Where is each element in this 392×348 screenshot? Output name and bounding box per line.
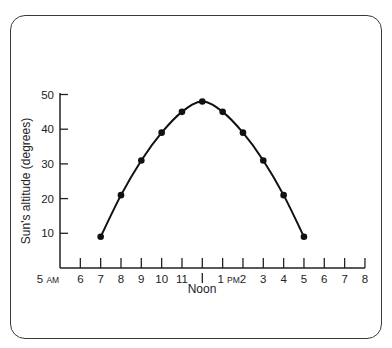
data-point [240,129,247,136]
x-tick-label: 4 [280,273,287,285]
x-tick-label: 8 [362,273,368,285]
data-point [179,109,186,116]
x-axis-noon-label: Noon [188,282,217,296]
x-tick-label: 7 [97,273,103,285]
data-point [158,129,165,136]
data-point [219,109,226,116]
x-tick-label: 2 [240,273,246,285]
x-tick-label: 10 [155,273,168,285]
x-tick-label: 3 [260,273,266,285]
y-axis-title: Sun's altitude (degrees) [19,118,33,244]
data-point [118,192,125,199]
y-tick-label: 50 [41,89,54,101]
axes [60,93,365,268]
x-tick-label: 5 AM [37,273,59,285]
y-tick-label: 30 [41,158,54,170]
y-tick-label: 40 [41,123,54,135]
altitude-curve [101,101,304,236]
x-tick-label: 11 [176,273,188,285]
y-tick-label: 10 [41,227,54,239]
x-tick-label: 8 [118,273,124,285]
sun-altitude-chart: 1020304050 5 AM678910111 PM2345678 Sun's… [0,0,392,348]
data-point [138,157,145,164]
data-point [260,157,267,164]
x-tick-label: 5 [301,273,307,285]
x-tick-label: 6 [321,273,327,285]
data-point [97,233,104,240]
y-tick-label: 20 [41,193,54,205]
x-tick-label: 7 [341,273,347,285]
x-tick-label: 9 [138,273,144,285]
data-point [199,98,206,105]
y-axis-ticks: 1020304050 [41,89,68,240]
x-tick-label: 1 PM [217,273,239,285]
data-points [97,98,307,240]
data-point [301,233,308,240]
x-tick-label: 6 [77,273,83,285]
x-axis-ticks: 5 AM678910111 PM2345678 [37,258,368,285]
data-point [280,192,287,199]
